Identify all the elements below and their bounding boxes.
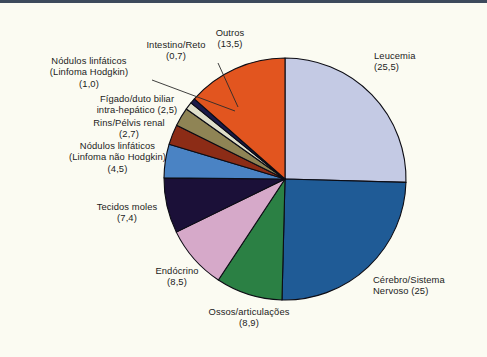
pie-label-cerebro-name: Cérebro/Sistema bbox=[373, 274, 445, 285]
pie-label-intestino-value: (0,7) bbox=[128, 50, 224, 61]
pie-slice-group bbox=[164, 58, 406, 300]
pie-label-endocrino: Endócrino (8,5) bbox=[137, 265, 217, 288]
pie-label-ossos-name: Ossos/articulações bbox=[193, 306, 305, 317]
pie-label-tecidos-name: Tecidos moles bbox=[85, 201, 169, 212]
pie-label-figado-line1: Fígado/duto biliar bbox=[79, 93, 195, 104]
pie-label-hodgkin-line2: (Linfoma Hodgkin) bbox=[25, 66, 153, 77]
pie-chart-figure: Leucemia (25,5) Cérebro/Sistema Nervoso … bbox=[0, 0, 487, 357]
pie-label-endocrino-value: (8,5) bbox=[137, 276, 217, 287]
pie-label-nodulos-nao-hodgkin: Nódulos linfáticos (Linfoma não Hodgkin)… bbox=[46, 140, 189, 174]
pie-label-outros-value: (13,5) bbox=[196, 38, 264, 49]
pie-label-leucemia: Leucemia (25,5) bbox=[374, 50, 415, 73]
pie-label-nao-hodgkin-line1: Nódulos linfáticos bbox=[46, 140, 189, 151]
pie-slice bbox=[285, 58, 406, 182]
pie-label-endocrino-name: Endócrino bbox=[137, 265, 217, 276]
pie-label-ossos-value: (8,9) bbox=[193, 317, 305, 328]
pie-label-nao-hodgkin-value: (4,5) bbox=[46, 163, 189, 174]
pie-label-tecidos-moles: Tecidos moles (7,4) bbox=[85, 201, 169, 224]
pie-label-tecidos-value: (7,4) bbox=[85, 212, 169, 223]
pie-label-figado-line2: intra-hepático (2,5) bbox=[79, 104, 195, 115]
pie-label-hodgkin-value: (1,0) bbox=[25, 78, 153, 89]
pie-label-ossos-articulacoes: Ossos/articulações (8,9) bbox=[193, 306, 305, 329]
pie-label-cerebro-sistema-nervoso: Cérebro/Sistema Nervoso (25) bbox=[373, 274, 445, 297]
pie-label-rins-name: Rins/Pélvis renal bbox=[74, 117, 184, 128]
pie-label-rins-pelvis-renal: Rins/Pélvis renal (2,7) bbox=[74, 117, 184, 140]
pie-label-rins-value: (2,7) bbox=[74, 128, 184, 139]
pie-label-leucemia-name: Leucemia bbox=[374, 50, 415, 61]
pie-label-nao-hodgkin-line2: (Linfoma não Hodgkin) bbox=[46, 151, 189, 162]
pie-label-outros: Outros (13,5) bbox=[196, 27, 264, 50]
pie-label-leucemia-value: (25,5) bbox=[374, 61, 415, 72]
pie-label-cerebro-value: Nervoso (25) bbox=[373, 285, 445, 296]
pie-label-outros-name: Outros bbox=[196, 27, 264, 38]
pie-label-figado-duto-biliar: Fígado/duto biliar intra-hepático (2,5) bbox=[79, 93, 195, 116]
chart-area: Leucemia (25,5) Cérebro/Sistema Nervoso … bbox=[0, 3, 487, 357]
